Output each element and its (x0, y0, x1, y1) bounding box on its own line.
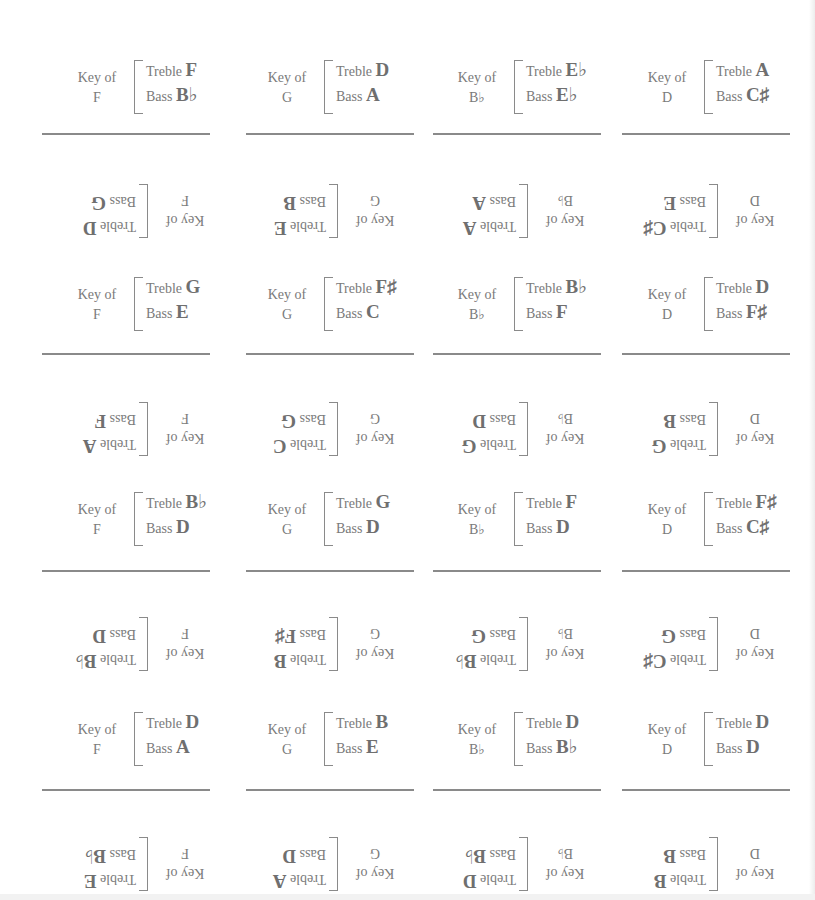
clef-notes: Treble DBass F♯ (716, 275, 769, 325)
treble-label: Treble (336, 64, 372, 79)
treble-note: B (654, 871, 667, 892)
bass-line: Bass B (654, 843, 706, 868)
clef-notes: Treble B♭Bass F (526, 275, 587, 325)
bass-label: Bass (716, 521, 742, 536)
treble-label: Treble (146, 496, 182, 511)
clef-notes: Treble DBass B♭ (463, 843, 516, 893)
clef-notes: Treble DBass G (83, 190, 136, 240)
key-flashcard: Key ofFTreble DBass G (46, 160, 216, 240)
bass-line: Bass B (652, 408, 706, 433)
bracket-icon (709, 184, 718, 238)
key-name: D (636, 520, 698, 540)
bass-label: Bass (680, 412, 706, 427)
key-flashcard: Key ofDTreble DBass F♯ (636, 275, 806, 355)
key-name: B♭ (446, 740, 508, 760)
bass-note: E (366, 736, 379, 757)
cut-line-divider (433, 570, 601, 572)
key-flashcard: Key ofDTreble ABass C♯ (636, 58, 806, 138)
treble-line: Treble C♯ (643, 648, 706, 673)
key-flashcard: Key ofB♭Treble DBass B♭ (446, 710, 616, 790)
bass-line: Bass D (273, 843, 326, 868)
treble-line: Treble D (716, 275, 769, 300)
treble-note: D (756, 711, 770, 732)
treble-line: Treble F (526, 490, 577, 515)
treble-note: E♭ (566, 59, 588, 80)
clef-notes: Treble F♯Bass C♯ (716, 490, 777, 540)
treble-note: E (274, 218, 287, 239)
bass-label: Bass (490, 847, 516, 862)
key-name: G (256, 740, 318, 760)
key-name: G (344, 190, 406, 210)
key-label: Key ofB♭ (534, 843, 596, 883)
bass-note: G (91, 193, 106, 214)
cut-line-divider (433, 133, 601, 135)
cut-line-divider (622, 353, 790, 355)
bracket-icon (134, 492, 143, 546)
treble-label: Treble (146, 64, 182, 79)
treble-line: Treble D (146, 710, 199, 735)
clef-notes: Treble EBass B♭ (84, 843, 136, 893)
bass-note: D (282, 846, 296, 867)
cut-line-divider (246, 133, 414, 135)
treble-label: Treble (146, 281, 182, 296)
clef-notes: Treble C♯Bass G (643, 623, 706, 673)
treble-note: D (463, 871, 477, 892)
key-flashcard: Key ofFTreble EBass B♭ (46, 813, 216, 893)
treble-label: Treble (100, 219, 136, 234)
clef-notes: Treble ABass D (273, 843, 326, 893)
key-label: Key ofB♭ (446, 68, 508, 108)
bracket-icon (709, 402, 718, 456)
key-flashcard: Key ofFTreble B♭Bass D (66, 490, 236, 570)
treble-label: Treble (480, 652, 516, 667)
key-name: G (344, 623, 406, 643)
treble-label: Treble (290, 652, 326, 667)
cut-line-divider (622, 789, 790, 791)
treble-label: Treble (526, 716, 562, 731)
key-of-text: Key of (446, 720, 508, 740)
bass-line: Bass C♯ (716, 83, 769, 108)
bracket-icon (514, 712, 523, 766)
bracket-icon (324, 492, 333, 546)
treble-label: Treble (480, 872, 516, 887)
treble-note: F♯ (756, 491, 777, 512)
treble-note: G (652, 436, 667, 457)
key-label: Key ofG (256, 720, 318, 760)
bass-line: Bass E♭ (526, 83, 587, 108)
bass-line: Bass G (643, 623, 706, 648)
bracket-icon (519, 184, 528, 238)
key-of-text: Key of (256, 68, 318, 88)
bass-label: Bass (300, 194, 326, 209)
treble-label: Treble (670, 219, 706, 234)
clef-notes: Treble DBass A (336, 58, 389, 108)
key-of-text: Key of (534, 643, 596, 663)
treble-label: Treble (100, 652, 136, 667)
bracket-icon (324, 712, 333, 766)
bass-note: F (556, 301, 568, 322)
key-of-text: Key of (256, 500, 318, 520)
bracket-icon (709, 837, 718, 891)
bracket-icon (139, 617, 148, 671)
key-label: Key ofB♭ (446, 500, 508, 540)
bracket-icon (324, 277, 333, 331)
key-name: G (344, 843, 406, 863)
key-name: D (724, 843, 786, 863)
bass-note: G (281, 411, 296, 432)
treble-note: C (273, 436, 287, 457)
bracket-icon (514, 277, 523, 331)
key-flashcard: Key ofFTreble B♭Bass D (46, 593, 216, 673)
key-of-text: Key of (256, 285, 318, 305)
treble-line: Treble G (652, 433, 706, 458)
treble-note: G (186, 276, 201, 297)
treble-note: A (83, 436, 97, 457)
treble-line: Treble B♭ (75, 648, 136, 673)
treble-note: D (756, 276, 770, 297)
clef-notes: Treble F♯Bass C (336, 275, 397, 325)
treble-label: Treble (670, 437, 706, 452)
clef-notes: Treble CBass G (273, 408, 326, 458)
bass-label: Bass (490, 412, 516, 427)
key-flashcard: Key ofGTreble DBass A (256, 58, 426, 138)
treble-line: Treble B (336, 710, 388, 735)
cut-line-divider (246, 789, 414, 791)
key-of-text: Key of (636, 500, 698, 520)
key-label: Key ofG (256, 285, 318, 325)
